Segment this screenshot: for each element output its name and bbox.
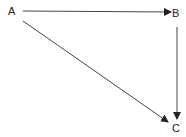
edge-a-b [23,11,171,12]
node-c: C [172,123,180,134]
diagram-canvas [0,0,186,137]
node-b: B [172,8,179,19]
node-a: A [8,6,15,17]
edge-a-c [23,21,168,122]
